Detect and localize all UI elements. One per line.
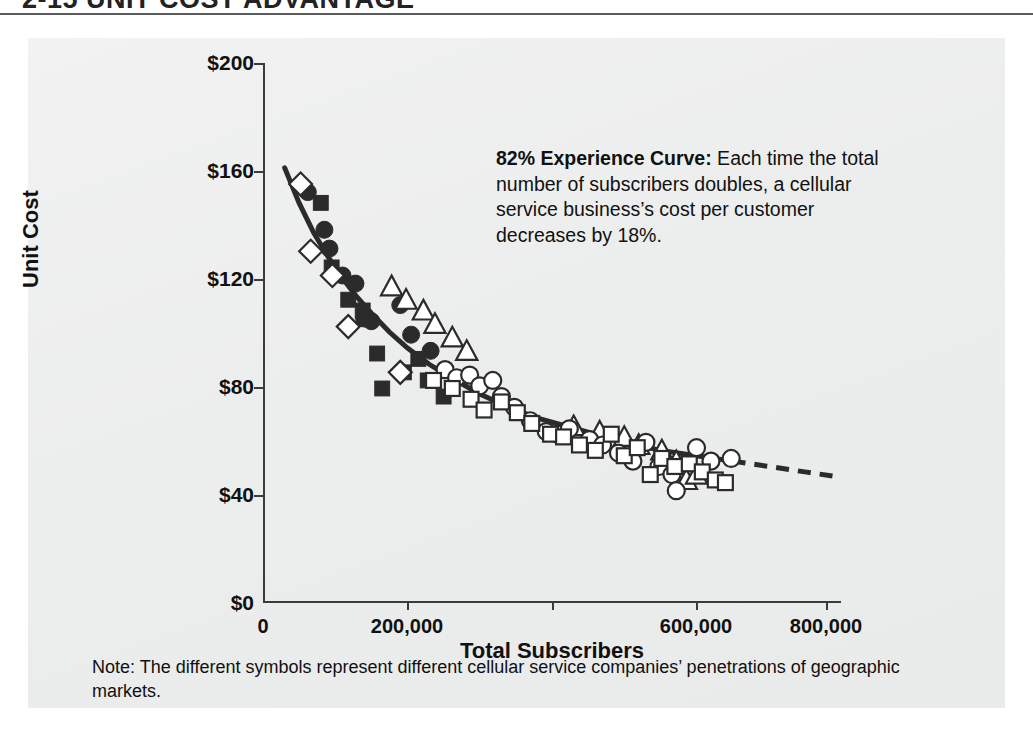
data-point-open-square bbox=[510, 405, 525, 420]
data-point-open-square bbox=[643, 467, 658, 482]
data-point-filled-circle bbox=[347, 275, 364, 292]
x-axis-tick bbox=[696, 601, 698, 610]
chart-plot-area: Unit Cost $200 $160 $120 $80 $40 $0 bbox=[28, 38, 1005, 708]
experience-curve-annotation: 82% Experience Curve: Each time the tota… bbox=[496, 146, 891, 249]
heading-divider-rule bbox=[0, 13, 1033, 15]
data-point-open-square bbox=[718, 475, 733, 490]
data-point-filled-circle bbox=[403, 326, 420, 343]
x-axis-tick bbox=[826, 601, 828, 610]
y-axis-title: Unit Cost bbox=[18, 190, 44, 288]
y-axis-tick bbox=[254, 495, 263, 497]
data-point-open-square bbox=[426, 373, 441, 388]
data-point-open-circle bbox=[484, 372, 501, 389]
y-axis-tick-labels: $200 $160 $120 $80 $40 $0 bbox=[128, 63, 254, 603]
figure-panel: Unit Cost $200 $160 $120 $80 $40 $0 bbox=[28, 38, 1005, 708]
data-point-open-square bbox=[494, 395, 509, 410]
data-point-filled-square bbox=[370, 346, 385, 361]
y-axis-line bbox=[263, 63, 265, 603]
y-tick-label: $120 bbox=[207, 267, 254, 291]
data-point-open-diamond bbox=[389, 361, 412, 384]
annotation-lead-label: 82% Experience Curve: bbox=[496, 147, 712, 169]
data-point-open-square bbox=[445, 381, 460, 396]
data-point-filled-square bbox=[313, 195, 328, 210]
y-axis-tick bbox=[254, 63, 263, 65]
chapter-heading-strip: 2-15 UNIT COST ADVANTAGE bbox=[0, 0, 1033, 17]
data-point-filled-circle bbox=[321, 240, 338, 257]
data-point-open-square bbox=[630, 440, 645, 455]
y-tick-label: $160 bbox=[207, 159, 254, 183]
data-point-open-circle bbox=[688, 439, 705, 456]
data-point-filled-square bbox=[355, 303, 370, 318]
scatter-and-curve-layer bbox=[263, 63, 841, 603]
chart-axes: 0 200,000 600,000 800,000 bbox=[263, 63, 841, 603]
figure-note: Note: The different symbols represent di… bbox=[92, 655, 972, 704]
data-point-open-triangle bbox=[381, 276, 402, 296]
x-tick-label: 800,000 bbox=[790, 615, 862, 638]
data-point-open-square bbox=[572, 438, 587, 453]
x-axis-tick bbox=[552, 601, 554, 610]
data-point-filled-square bbox=[411, 351, 426, 366]
data-point-open-square bbox=[524, 416, 539, 431]
data-point-filled-square bbox=[341, 292, 356, 307]
fit-curve-dashed bbox=[733, 461, 841, 477]
data-point-filled-circle bbox=[316, 221, 333, 238]
y-axis-tick bbox=[254, 387, 263, 389]
x-axis-tick bbox=[407, 601, 409, 610]
data-point-open-square bbox=[667, 459, 682, 474]
y-tick-label: $40 bbox=[219, 483, 254, 507]
y-tick-label: $0 bbox=[231, 591, 254, 615]
y-axis-tick bbox=[254, 279, 263, 281]
data-point-open-square bbox=[477, 403, 492, 418]
data-point-open-circle bbox=[668, 482, 685, 499]
data-point-open-circle bbox=[723, 450, 740, 467]
x-tick-label: 200,000 bbox=[371, 615, 443, 638]
x-tick-label: 0 bbox=[257, 615, 268, 638]
y-tick-label: $200 bbox=[207, 51, 254, 75]
data-point-open-square bbox=[588, 443, 603, 458]
x-tick-label: 600,000 bbox=[660, 615, 732, 638]
data-point-open-square bbox=[604, 427, 619, 442]
data-point-filled-square bbox=[375, 381, 390, 396]
y-tick-label: $80 bbox=[219, 375, 254, 399]
data-point-open-square bbox=[556, 429, 571, 444]
y-axis-tick bbox=[254, 171, 263, 173]
